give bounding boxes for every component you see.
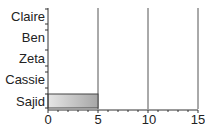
y-label-zeta: Zeta bbox=[19, 52, 45, 66]
x-label-15: 15 bbox=[191, 113, 205, 127]
x-label-5: 5 bbox=[94, 113, 101, 127]
bar-sajid bbox=[48, 94, 98, 108]
y-label-ben: Ben bbox=[22, 31, 45, 45]
y-label-claire: Claire bbox=[11, 10, 45, 24]
x-label-10: 10 bbox=[142, 113, 156, 127]
bar-chart: Claire Ben Zeta Cassie Sajid 0 5 10 15 bbox=[0, 0, 205, 132]
y-label-sajid: Sajid bbox=[16, 95, 45, 109]
x-label-0: 0 bbox=[44, 113, 51, 127]
y-label-cassie: Cassie bbox=[5, 73, 45, 87]
